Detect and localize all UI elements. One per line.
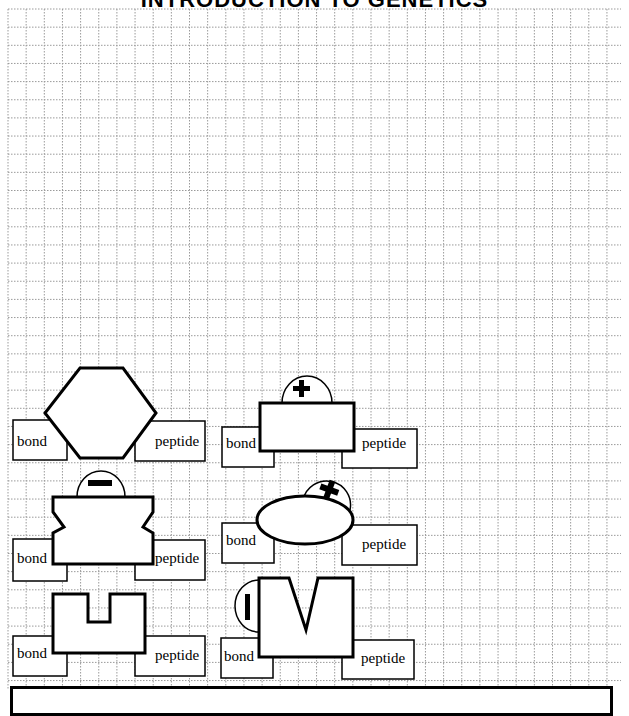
piece-hexagon[interactable]: bond peptide <box>13 368 205 461</box>
piece-ellipse-positive[interactable]: bond peptide <box>222 477 417 565</box>
bond-label: bond <box>224 648 255 664</box>
peptide-label: peptide <box>362 435 406 451</box>
bond-label: bond <box>17 550 48 566</box>
peptide-label: peptide <box>155 647 199 663</box>
bond-label: bond <box>17 433 48 449</box>
peptide-label: peptide <box>155 550 199 566</box>
piece-u-block[interactable]: bond peptide <box>13 594 205 676</box>
minus-icon <box>245 594 250 620</box>
answer-box[interactable] <box>10 686 613 716</box>
piece-notched-negative[interactable]: bond peptide <box>13 471 205 581</box>
v-shape <box>259 578 353 657</box>
bond-label: bond <box>17 645 48 661</box>
piece-rectangle-positive[interactable]: bond peptide <box>222 376 417 468</box>
bond-label: bond <box>226 435 257 451</box>
peptide-label: peptide <box>155 433 199 449</box>
peptide-label: peptide <box>361 650 405 666</box>
notched-shape <box>53 497 153 564</box>
peptide-label: peptide <box>362 536 406 552</box>
ellipse-shape <box>257 496 353 544</box>
u-shape <box>53 594 145 653</box>
piece-v-block-negative[interactable]: bond peptide <box>221 578 414 679</box>
bond-label: bond <box>226 532 257 548</box>
minus-icon <box>88 480 112 486</box>
rectangle-shape <box>260 403 354 451</box>
